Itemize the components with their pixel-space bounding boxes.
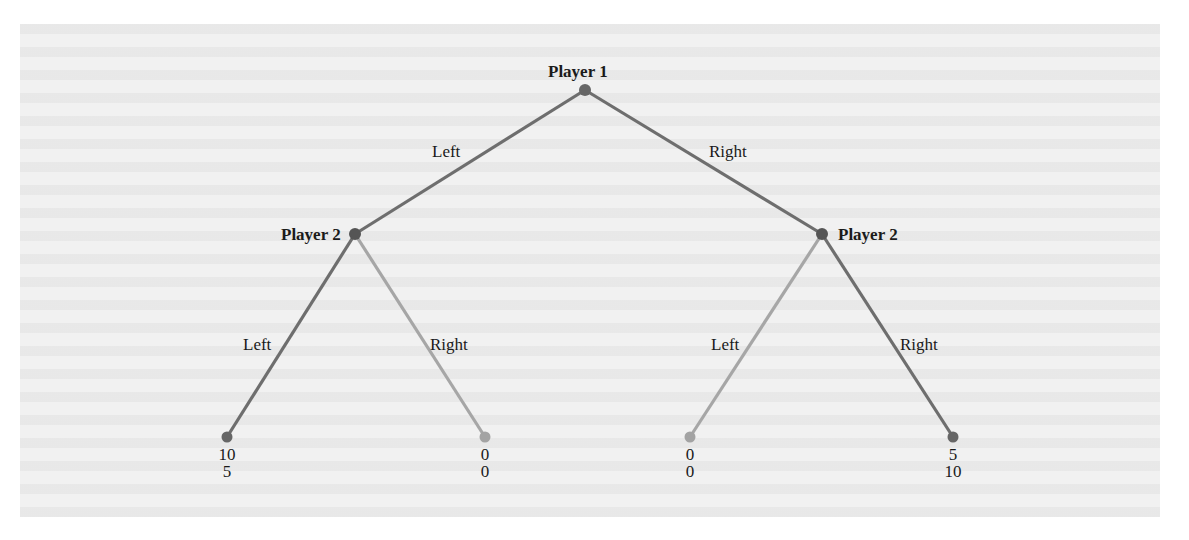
right-player2-label: Player 2 [838,226,898,243]
edge-label-right-right: Right [900,336,938,353]
left-player2-label: Player 2 [281,226,341,243]
leaf-node-right-right [948,432,959,443]
edge-root-right [585,90,822,234]
payoff-left-left: 10 5 [207,446,247,480]
payoff-player2: 0 [670,463,710,480]
node-left-player2 [349,228,361,240]
payoff-left-right: 0 0 [465,446,505,480]
edge-label-right-left: Left [711,336,739,353]
payoff-player1: 5 [933,446,973,463]
payoff-right-right: 5 10 [933,446,973,480]
payoff-player2: 5 [207,463,247,480]
edge-label-root-right: Right [709,143,747,160]
leaf-node-left-left [222,432,233,443]
edge-label-left-right: Right [430,336,468,353]
game-tree [0,0,1189,540]
node-right-player2 [816,228,828,240]
payoff-player2: 0 [465,463,505,480]
player1-label: Player 1 [548,63,608,80]
payoff-player2: 10 [933,463,973,480]
payoff-right-left: 0 0 [670,446,710,480]
payoff-player1: 0 [465,446,505,463]
leaf-node-right-left [685,432,696,443]
edge-root-left [355,90,585,234]
edge-label-root-left: Left [432,143,460,160]
payoff-player1: 0 [670,446,710,463]
payoff-player1: 10 [207,446,247,463]
edge-label-left-left: Left [243,336,271,353]
leaf-node-left-right [480,432,491,443]
edge-right-left [690,234,822,437]
node-root [579,84,591,96]
